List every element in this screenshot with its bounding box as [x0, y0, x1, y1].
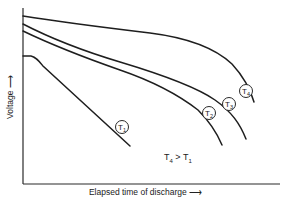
curve-t3: [23, 24, 246, 139]
curve-t4: [23, 16, 254, 102]
curve-t1: [23, 56, 130, 146]
temperature-annotation: T4 > T1: [164, 152, 192, 164]
label-t3: T3: [223, 98, 236, 111]
arrow-right-icon: ⟶: [189, 187, 202, 197]
label-t2: T2: [203, 107, 216, 120]
discharge-chart: T4 T3 T2 T1: [0, 0, 291, 201]
arrow-up-icon: ⟶: [5, 75, 15, 88]
label-t4: T4: [240, 85, 253, 98]
y-axis-label: Voltage ⟶: [5, 75, 15, 119]
label-t1: T1: [116, 121, 129, 134]
x-axis-label: Elapsed time of discharge ⟶: [0, 187, 291, 197]
